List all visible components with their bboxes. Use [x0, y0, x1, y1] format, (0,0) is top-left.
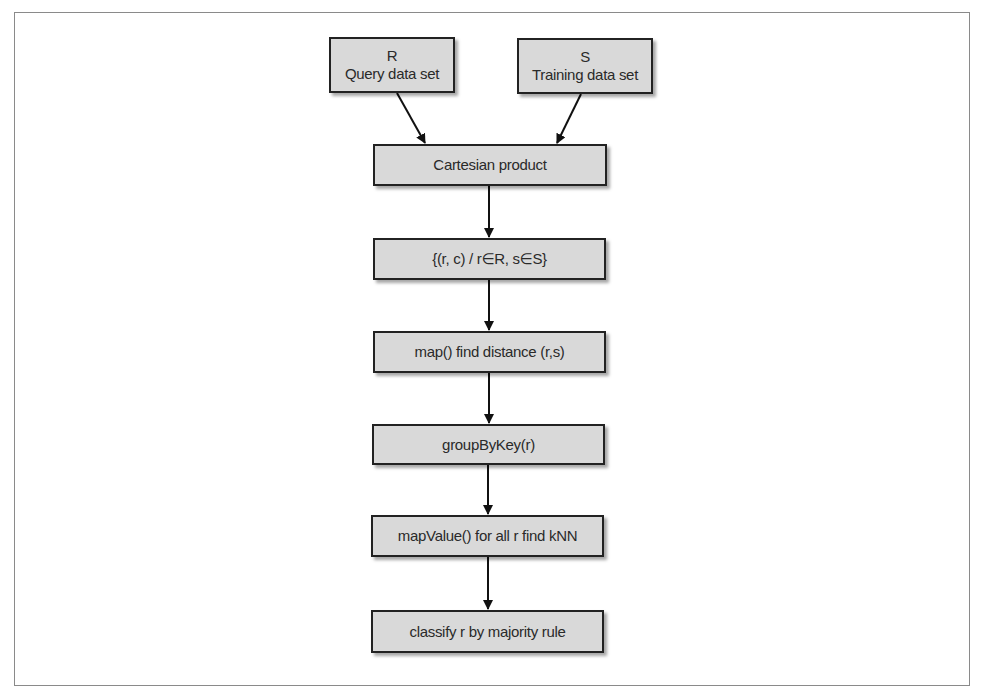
node-query-data-set-label: Query data set — [345, 65, 439, 83]
node-map-distance: map() find distance (r,s) — [373, 331, 606, 373]
node-training-data-set-symbol: S — [580, 48, 590, 66]
node-group-by-key-label: groupByKey(r) — [442, 436, 535, 454]
node-query-data-set: R Query data set — [329, 37, 455, 93]
node-pair-set: {(r, c) / r∈R, s∈S} — [373, 238, 606, 280]
node-classify-majority: classify r by majority rule — [371, 610, 604, 653]
node-training-data-set-label: Training data set — [532, 66, 638, 84]
node-map-value-knn-label: mapValue() for all r find kNN — [398, 527, 577, 545]
node-training-data-set: S Training data set — [517, 38, 653, 94]
node-map-value-knn: mapValue() for all r find kNN — [371, 515, 604, 557]
node-pair-set-label: {(r, c) / r∈R, s∈S} — [432, 250, 547, 268]
node-cartesian-product-label: Cartesian product — [433, 156, 546, 174]
node-classify-majority-label: classify r by majority rule — [409, 623, 565, 641]
node-map-distance-label: map() find distance (r,s) — [414, 343, 564, 361]
node-group-by-key: groupByKey(r) — [372, 424, 605, 465]
node-cartesian-product: Cartesian product — [373, 144, 607, 186]
node-query-data-set-symbol: R — [387, 47, 398, 65]
